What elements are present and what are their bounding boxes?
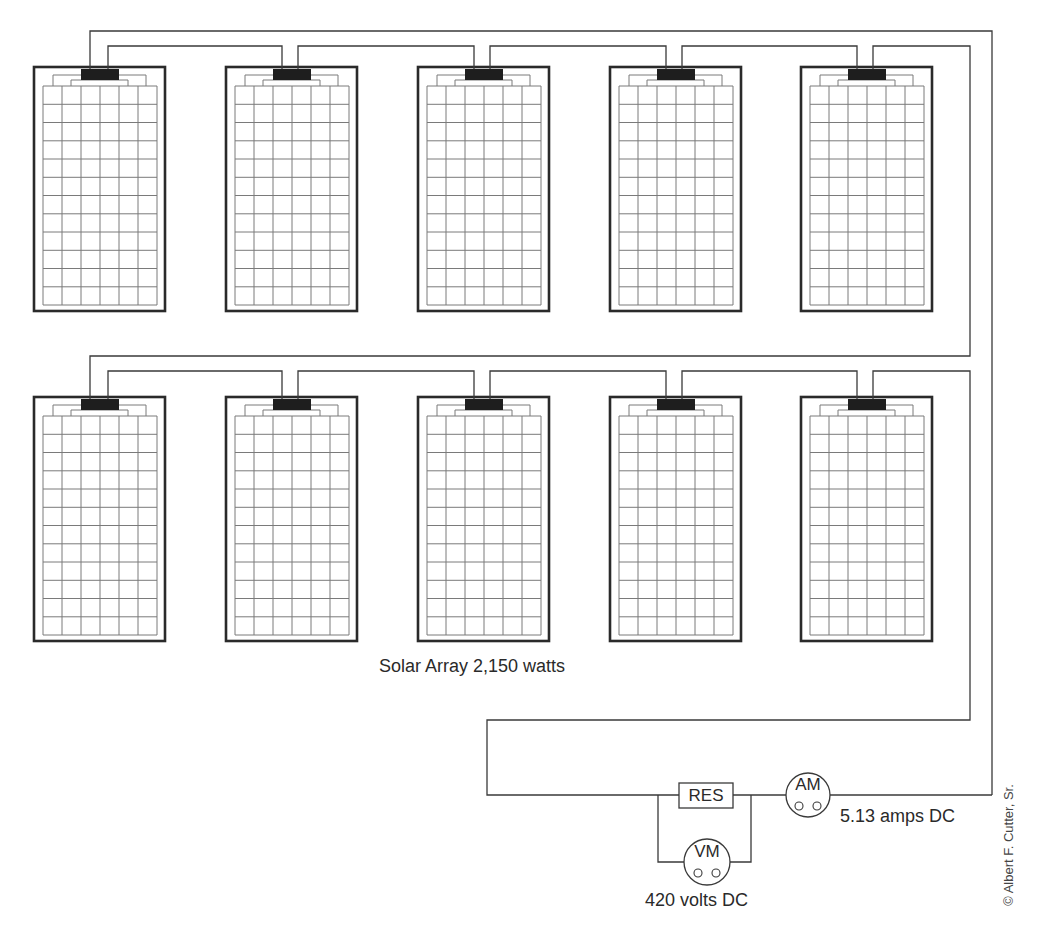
wire-r2-p2-p3 bbox=[298, 371, 474, 399]
junction-box bbox=[465, 69, 503, 80]
wire-r1-p4-p5 bbox=[682, 46, 857, 69]
solar-panel bbox=[226, 397, 357, 641]
wire-r1-p3-p4 bbox=[490, 46, 666, 69]
array-caption: Solar Array 2,150 watts bbox=[379, 656, 565, 677]
solar-panel bbox=[34, 397, 165, 641]
solar-panel bbox=[801, 67, 932, 311]
solar-panel bbox=[610, 397, 741, 641]
solar-panel bbox=[418, 67, 549, 311]
ammeter-reading: 5.13 amps DC bbox=[840, 806, 955, 827]
wire-r2-p4-p5 bbox=[682, 371, 857, 399]
solar-panel bbox=[34, 67, 165, 311]
wire-r1-p2-p3 bbox=[298, 46, 474, 69]
junction-box bbox=[465, 399, 503, 410]
ammeter-label: AM bbox=[785, 776, 831, 794]
copyright-credit: © Albert F. Cutter, Sr. bbox=[1001, 784, 1016, 906]
junction-box bbox=[848, 399, 886, 410]
voltmeter-reading: 420 volts DC bbox=[645, 890, 748, 911]
junction-box bbox=[273, 399, 311, 410]
resistor-label: RES bbox=[679, 783, 733, 808]
junction-box bbox=[657, 69, 695, 80]
junction-box bbox=[273, 69, 311, 80]
voltmeter-label: VM bbox=[684, 843, 730, 861]
junction-box bbox=[81, 399, 119, 410]
junction-box bbox=[81, 69, 119, 80]
solar-panel bbox=[801, 397, 932, 641]
wire-r1-p1-p2 bbox=[108, 46, 282, 69]
solar-array-diagram bbox=[0, 0, 1040, 935]
solar-panel bbox=[418, 397, 549, 641]
solar-panels bbox=[34, 67, 932, 641]
wire-r2-p3-p4 bbox=[490, 371, 666, 399]
junction-box bbox=[848, 69, 886, 80]
solar-panel bbox=[610, 67, 741, 311]
wire-r2-p1-p2 bbox=[108, 371, 282, 399]
solar-panel bbox=[226, 67, 357, 311]
junction-box bbox=[657, 399, 695, 410]
